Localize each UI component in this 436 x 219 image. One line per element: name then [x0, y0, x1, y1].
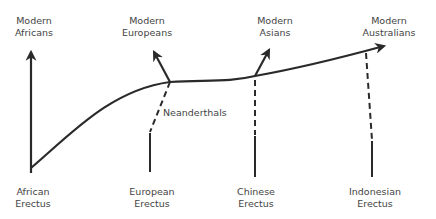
australian-branch — [366, 53, 372, 177]
indonesian-admixture-dashed — [366, 53, 372, 140]
label-modern-asians: Modern Asians — [257, 15, 293, 39]
label-neanderthals: Neanderthals — [163, 107, 227, 119]
label-modern-africans: Modern Africans — [15, 15, 53, 39]
label-indonesian-erectus: Indonesian Erectus — [349, 186, 401, 210]
asian-branch — [255, 50, 269, 177]
label-european-erectus: European Erectus — [129, 186, 174, 210]
label-modern-australians: Modern Australians — [363, 15, 416, 39]
label-chinese-erectus: Chinese Erectus — [237, 186, 275, 210]
label-modern-europeans: Modern Europeans — [122, 15, 172, 39]
label-african-erectus: African Erectus — [15, 186, 50, 210]
